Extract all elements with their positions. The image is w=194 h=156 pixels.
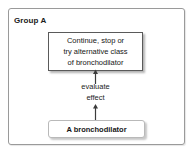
arrow-label: evaluate effect bbox=[48, 82, 143, 103]
top-outcome-box: Continue, stop or try alternative class … bbox=[48, 32, 143, 71]
diagram-canvas: Group A Continue, stop or try alternativ… bbox=[0, 0, 194, 156]
bottom-box-line-1: A bronchodilator bbox=[66, 125, 126, 134]
arrow-label-line-2: effect bbox=[48, 93, 143, 104]
group-label: Group A bbox=[14, 16, 46, 25]
top-box-line-3: of bronchodilator bbox=[68, 57, 124, 68]
arrow-label-line-1: evaluate bbox=[48, 82, 143, 93]
top-box-line-2: try alternative class bbox=[63, 46, 127, 57]
top-box-line-1: Continue, stop or bbox=[67, 35, 124, 46]
bottom-treatment-box: A bronchodilator bbox=[48, 120, 145, 138]
